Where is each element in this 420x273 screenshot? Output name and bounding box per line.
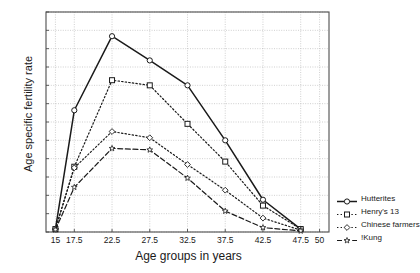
legend-item-0[interactable]: Hutterites: [336, 192, 412, 205]
legend-marker-icon: [336, 193, 358, 204]
legend-marker-icon: [336, 232, 358, 243]
data-point-marker: [185, 121, 190, 126]
data-point-marker: [260, 197, 265, 202]
data-point-marker: [110, 78, 115, 83]
data-point-marker: [185, 83, 190, 88]
data-point-marker: [223, 138, 228, 143]
legend-marker-icon: [336, 206, 358, 217]
legend-item-2[interactable]: Chinese farmers: [336, 218, 412, 231]
data-point-marker: [344, 199, 349, 204]
data-point-marker: [72, 108, 77, 113]
data-point-marker: [147, 58, 152, 63]
legend-item-1[interactable]: Henry's 13: [336, 205, 412, 218]
legend-marker-icon: [336, 219, 358, 230]
legend-label: !Kung: [358, 233, 382, 242]
data-point-marker: [344, 225, 350, 231]
data-point-marker: [147, 135, 153, 141]
data-point-marker: [109, 34, 114, 39]
legend-item-3[interactable]: !Kung: [336, 231, 412, 244]
data-point-marker: [223, 159, 228, 164]
data-point-marker: [345, 212, 350, 217]
data-point-marker: [344, 238, 350, 243]
data-point-marker: [260, 215, 266, 221]
data-point-marker: [260, 203, 265, 208]
data-point-marker: [260, 225, 266, 230]
series-line-2: [55, 132, 300, 231]
chart-legend: HutteritesHenry's 13Chinese farmers!Kung: [336, 192, 412, 244]
legend-label: Hutterites: [358, 194, 395, 203]
legend-label: Henry's 13: [358, 207, 399, 216]
data-point-marker: [109, 145, 115, 150]
data-point-marker: [147, 83, 152, 88]
legend-label: Chinese farmers: [358, 220, 420, 229]
